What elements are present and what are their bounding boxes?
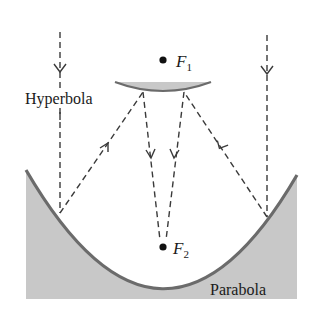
focus-f2-label: F2 bbox=[172, 239, 189, 260]
cassegrain-diagram: F1 F2 Hyperbola Parabola bbox=[0, 0, 314, 314]
ray-left-to-f2 bbox=[143, 92, 160, 240]
ray-right-to-f2 bbox=[166, 92, 184, 240]
arrow-right-to-f2-icon bbox=[170, 149, 179, 158]
ray-left-reflected bbox=[60, 92, 143, 213]
ray-right-reflected bbox=[184, 92, 267, 217]
arrow-right-reflected-icon bbox=[217, 139, 228, 148]
arrow-left-reflected-icon bbox=[100, 143, 108, 152]
focus-f1-dot bbox=[159, 56, 166, 63]
focus-f2-dot bbox=[159, 243, 166, 250]
focus-f1-label: F1 bbox=[175, 52, 192, 73]
hyperbola-label: Hyperbola bbox=[25, 90, 93, 108]
parabola-label: Parabola bbox=[210, 281, 266, 298]
